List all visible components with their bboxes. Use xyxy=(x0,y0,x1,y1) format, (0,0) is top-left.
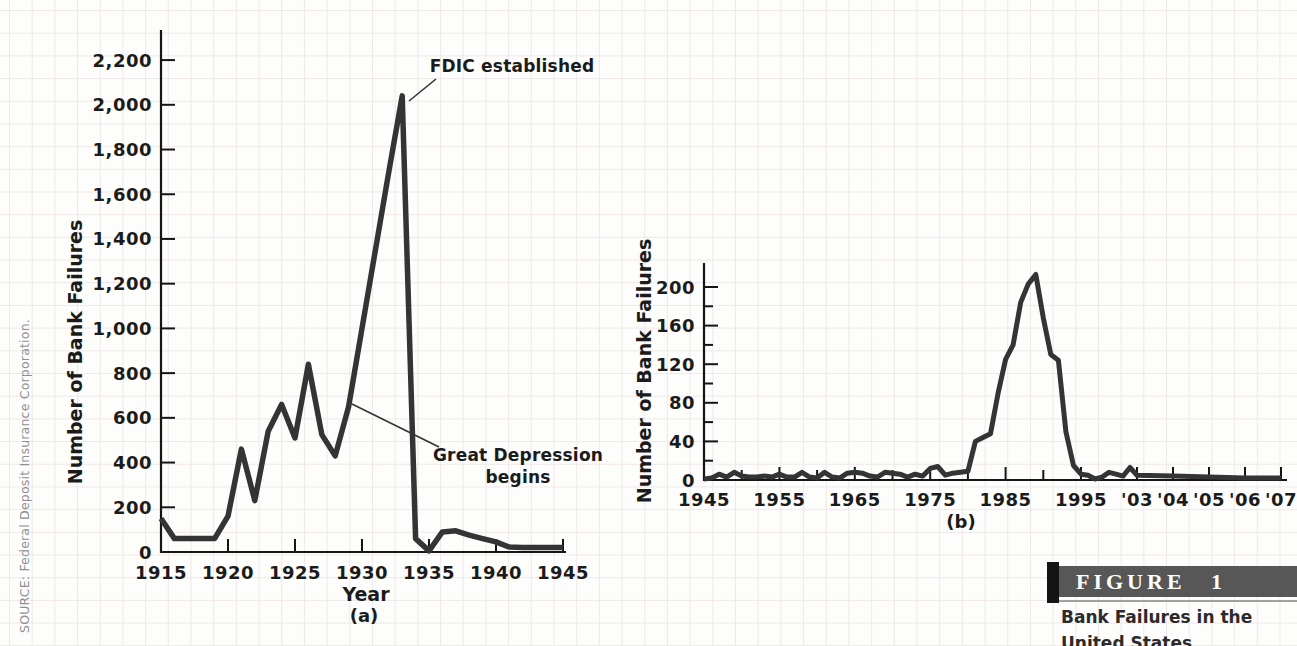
chart-panel-a: 02004006008001,0001,2001,4001,6001,8002,… xyxy=(64,30,603,626)
depression-annotation-text: begins xyxy=(485,467,550,487)
y-tick-label: 1,000 xyxy=(93,318,152,339)
y-tick-label: 0 xyxy=(139,542,152,563)
y-tick-label: 200 xyxy=(656,277,695,298)
y-tick-label: 1,200 xyxy=(93,273,152,294)
figure-caption-line2: United States xyxy=(1061,630,1252,646)
fdic-annotation-text: FDIC established xyxy=(430,56,595,76)
source-note: SOURCE: Federal Deposit Insurance Corpor… xyxy=(17,319,32,633)
y-tick-label: 160 xyxy=(656,315,695,336)
y-tick-label: 1,400 xyxy=(93,228,152,249)
y-tick-label: 80 xyxy=(669,392,695,413)
y-tick-label: 1,800 xyxy=(93,139,152,160)
depression-leader-line xyxy=(352,404,439,447)
fdic-leader-line xyxy=(409,79,436,101)
y-tick-label: 2,200 xyxy=(93,50,152,71)
y-tick-label: 0 xyxy=(682,470,695,491)
y-tick-label: 2,000 xyxy=(93,94,152,115)
x-tick-label: 1935 xyxy=(403,562,455,583)
bank-failures-figure: 02004006008001,0001,2001,4001,6001,8002,… xyxy=(0,0,1297,646)
panel-label: (a) xyxy=(350,605,379,626)
y-tick-label: 120 xyxy=(656,354,695,375)
x-tick-label: 1945 xyxy=(678,489,730,510)
x-tick-label: '07 xyxy=(1265,489,1297,510)
y-tick-label: 400 xyxy=(113,452,152,473)
x-tick-label: '06 xyxy=(1229,489,1261,510)
figure-number-banner: FIGURE 1 xyxy=(1059,566,1297,597)
x-tick-label: '05 xyxy=(1193,489,1225,510)
x-tick-label: 1955 xyxy=(753,489,805,510)
x-tick-label: 1925 xyxy=(269,562,321,583)
data-line xyxy=(704,275,1281,480)
chart-panel-b: 04080120160200194519551965197519851995'0… xyxy=(633,239,1297,532)
x-tick-label: 1920 xyxy=(202,562,254,583)
figure-banner-underline xyxy=(1059,600,1297,602)
x-tick-label: 1945 xyxy=(537,562,589,583)
x-axis-title: Year xyxy=(341,583,390,605)
figure-caption-line1: Bank Failures in the xyxy=(1061,604,1252,630)
x-tick-label: 1915 xyxy=(135,562,187,583)
figure-number-label: FIGURE 1 xyxy=(1076,569,1226,594)
y-tick-label: 200 xyxy=(113,497,152,518)
figure-caption: Bank Failures in the United States xyxy=(1061,604,1252,646)
figure-accent-bar xyxy=(1047,562,1059,603)
x-tick-label: 1995 xyxy=(1055,489,1107,510)
y-tick-label: 40 xyxy=(669,431,695,452)
x-tick-label: '04 xyxy=(1157,489,1189,510)
y-axis-title: Number of Bank Failures xyxy=(633,239,655,504)
panel-label: (b) xyxy=(946,511,975,532)
x-tick-label: 1940 xyxy=(470,562,522,583)
x-tick-label: 1965 xyxy=(829,489,881,510)
y-tick-label: 800 xyxy=(113,363,152,384)
depression-annotation-text: Great Depression xyxy=(433,445,603,465)
y-axis-title: Number of Bank Failures xyxy=(64,220,86,485)
x-tick-label: '03 xyxy=(1121,489,1153,510)
y-tick-label: 600 xyxy=(113,407,152,428)
x-tick-label: 1985 xyxy=(980,489,1032,510)
y-tick-label: 1,600 xyxy=(93,184,152,205)
x-tick-label: 1975 xyxy=(904,489,956,510)
x-tick-label: 1930 xyxy=(336,562,388,583)
